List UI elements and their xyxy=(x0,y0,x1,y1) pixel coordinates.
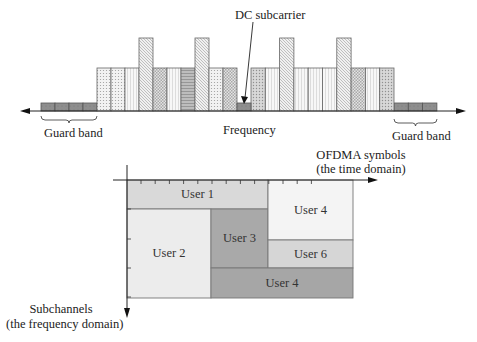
subcarrier-bar-right xyxy=(337,38,351,111)
subcarrier-bar-left xyxy=(209,68,223,111)
user-block-label: User 3 xyxy=(211,209,268,268)
guard-band-right-label: Guard band xyxy=(392,129,451,143)
subcarrier-bar-left xyxy=(223,68,237,111)
dc-subcarrier-label: DC subcarrier xyxy=(235,8,305,22)
subcarrier-bar-left xyxy=(181,68,195,111)
user-block-label: User 6 xyxy=(268,240,353,268)
guard-band-left-cell xyxy=(41,103,55,111)
guard-band-right-cell xyxy=(394,103,408,111)
subcarrier-bar-right xyxy=(308,68,322,111)
time-axis-arrow-icon xyxy=(368,177,378,183)
ofdma-figure: DC subcarrier Frequency Guard band Guard… xyxy=(0,0,477,342)
guard-band-left-label: Guard band xyxy=(44,126,103,140)
subcarrier-bar-left xyxy=(97,68,111,111)
guard-band-left-cell xyxy=(69,103,83,111)
guard-band-right-brace xyxy=(394,119,437,126)
x-axis-label-line1: OFDMA symbols xyxy=(306,148,416,162)
guard-band-left-cell xyxy=(55,103,69,111)
subcarrier-bar-left xyxy=(167,68,181,111)
user-block-label: User 2 xyxy=(127,209,211,298)
user-block-label: User 1 xyxy=(127,180,268,209)
user-block-label: User 4 xyxy=(211,268,353,298)
y-axis-label-line1: Subchannels xyxy=(6,302,116,316)
axis-arrow-right-icon xyxy=(456,108,466,114)
subcarrier-bar-right xyxy=(351,68,365,111)
subcarrier-bar-right xyxy=(323,68,337,111)
subcarrier-bar-left xyxy=(153,68,167,111)
subcarrier-bar-left xyxy=(195,38,209,111)
frequency-spectrum xyxy=(20,22,466,126)
guard-band-right-cell xyxy=(423,103,437,111)
axis-arrow-left-icon xyxy=(20,108,30,114)
subcarrier-bar-right xyxy=(294,68,308,111)
y-axis-label-line2: (the frequency domain) xyxy=(6,317,122,331)
user-block-label: User 4 xyxy=(268,180,353,240)
subcarrier-bar-right xyxy=(280,38,294,111)
guard-band-left-cell xyxy=(83,103,97,111)
x-axis-label-line2: (the time domain) xyxy=(306,162,416,176)
frequency-axis-label: Frequency xyxy=(223,123,276,137)
dc-subcarrier-bar xyxy=(237,103,251,111)
subcarrier-bar-right xyxy=(380,68,394,111)
subcarrier-bar-right xyxy=(265,68,279,111)
subcarrier-bar-left xyxy=(125,68,139,111)
subcarrier-bar-right xyxy=(365,68,379,111)
guard-band-left-brace xyxy=(41,116,97,123)
subcarrier-bar-left xyxy=(139,38,153,111)
guard-band-right-cell xyxy=(408,103,422,111)
subchannel-axis-arrow-icon xyxy=(124,308,130,318)
subcarrier-bar-left xyxy=(111,68,125,111)
subcarrier-bar-right xyxy=(251,68,265,111)
